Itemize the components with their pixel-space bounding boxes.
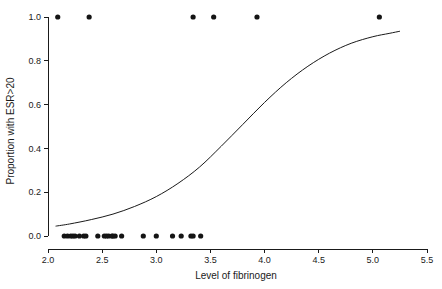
data-point-outcome-one <box>191 14 196 19</box>
data-point-outcome-zero <box>141 233 146 238</box>
data-point-outcome-zero <box>113 233 118 238</box>
y-axis-tick-label: 1.0 <box>28 12 41 22</box>
y-axis-tick-label: 0.2 <box>28 187 41 197</box>
data-point-outcome-zero <box>83 233 88 238</box>
data-point-outcome-zero <box>95 233 100 238</box>
data-point-outcome-zero <box>170 233 175 238</box>
y-axis-tick-label: 0.0 <box>28 231 41 241</box>
y-axis-tick-label: 0.8 <box>28 56 41 66</box>
data-point-outcome-one <box>254 14 259 19</box>
x-axis-tick-label: 3.5 <box>204 255 217 265</box>
y-axis-title: Proportion with ESR>20 <box>5 77 16 184</box>
data-point-outcome-one <box>55 14 60 19</box>
x-axis-tick-label: 5.5 <box>421 255 434 265</box>
x-axis-tick-label: 5.0 <box>367 255 380 265</box>
x-axis-title: Level of fibrinogen <box>195 270 277 281</box>
data-point-outcome-zero <box>119 233 124 238</box>
data-point-outcome-zero <box>198 233 203 238</box>
data-point-outcome-zero <box>154 233 159 238</box>
data-point-outcome-one <box>377 14 382 19</box>
x-axis-tick-label: 4.0 <box>258 255 271 265</box>
chart-figure: 0.00.20.40.60.81.0 2.02.53.03.54.04.55.0… <box>0 0 442 289</box>
x-axis-tick-label: 2.0 <box>42 255 55 265</box>
plot-background <box>0 0 442 289</box>
x-axis-tick-label: 3.0 <box>150 255 163 265</box>
plot-canvas: 0.00.20.40.60.81.0 2.02.53.03.54.04.55.0… <box>0 0 442 289</box>
y-axis-tick-label: 0.4 <box>28 144 41 154</box>
data-point-outcome-one <box>211 14 216 19</box>
x-axis-tick-label: 4.5 <box>312 255 325 265</box>
y-axis-tick-label: 0.6 <box>28 100 41 110</box>
data-point-outcome-zero <box>191 233 196 238</box>
data-point-outcome-zero <box>179 233 184 238</box>
x-axis-tick-label: 2.5 <box>96 255 109 265</box>
data-point-outcome-one <box>87 14 92 19</box>
